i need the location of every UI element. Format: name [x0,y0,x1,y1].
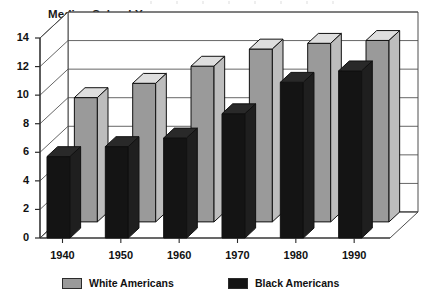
legend-label-black: Black Americans [255,277,339,289]
x-axis-tick-label: 1950 [97,249,145,261]
y-axis-tick-label: 2 [7,202,29,214]
chart-legend: White Americans Black Americans [0,275,436,293]
legend-item-black-americans: Black Americans [228,277,339,289]
x-axis-tick-label: 1940 [39,249,87,261]
y-axis-tick-label: 6 [7,145,29,157]
legend-swatch-icon-black [228,278,248,289]
y-axis-tick-label: 12 [7,60,29,72]
legend-item-white-americans: White Americans [62,277,174,289]
y-axis-tick-label: 4 [7,174,29,186]
x-axis-tick-label: 1990 [330,249,378,261]
y-axis-tick-label: 14 [7,31,29,43]
x-axis-tick-label: 1970 [214,249,262,261]
legend-label-white: White Americans [89,277,174,289]
chart-figure: Median School Years 02468101214 19401950… [0,0,436,302]
x-axis-tick-label: 1960 [155,249,203,261]
y-axis-tick-label: 10 [7,88,29,100]
x-axis-tick-label: 1980 [272,249,320,261]
y-axis-tick-label: 0 [7,231,29,243]
y-axis-tick-label: 8 [7,117,29,129]
legend-swatch-icon-white [62,278,82,289]
